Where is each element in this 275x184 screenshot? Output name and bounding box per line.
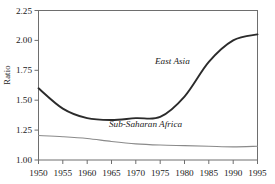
x-axis-tick-labels: 1950 1955 1960 1965 1970 1975 1980 1985 … bbox=[29, 168, 267, 178]
series-annotations: East AsiaSub-Saharan Africa bbox=[109, 56, 190, 129]
x-tick-label: 1960 bbox=[78, 168, 97, 178]
series-annotation-east-asia: East Asia bbox=[154, 56, 190, 66]
x-tick-label: 1985 bbox=[200, 168, 219, 178]
series-line-east-asia bbox=[39, 34, 258, 120]
chart-container: Ratio 1.00 1.25 1.50 1.75 2.00 2.25 bbox=[0, 0, 275, 184]
x-tick-label: 1950 bbox=[29, 168, 48, 178]
x-tick-label: 1965 bbox=[102, 168, 121, 178]
y-tick-label: 1.00 bbox=[16, 155, 32, 165]
y-axis-tick-labels: 1.00 1.25 1.50 1.75 2.00 2.25 bbox=[16, 6, 32, 166]
series-line-sub-saharan-africa bbox=[39, 135, 258, 146]
series-annotation-sub-saharan-africa: Sub-Saharan Africa bbox=[109, 119, 182, 129]
y-tick-label: 2.25 bbox=[16, 6, 32, 16]
line-chart: 1.00 1.25 1.50 1.75 2.00 2.25 1950 1955 … bbox=[0, 0, 275, 184]
series-layer bbox=[39, 34, 258, 146]
x-tick-label: 1990 bbox=[224, 168, 243, 178]
y-tick-label: 1.75 bbox=[16, 65, 32, 75]
x-tick-label: 1980 bbox=[175, 168, 194, 178]
y-tick-label: 1.25 bbox=[16, 125, 32, 135]
x-tick-label: 1975 bbox=[151, 168, 170, 178]
y-tick-label: 1.50 bbox=[16, 95, 32, 105]
x-tick-label: 1970 bbox=[127, 168, 146, 178]
x-tick-label: 1955 bbox=[54, 168, 73, 178]
y-axis-ticks bbox=[35, 11, 39, 161]
x-tick-label: 1995 bbox=[248, 168, 267, 178]
y-tick-label: 2.00 bbox=[16, 35, 32, 45]
x-axis-ticks bbox=[39, 160, 258, 164]
